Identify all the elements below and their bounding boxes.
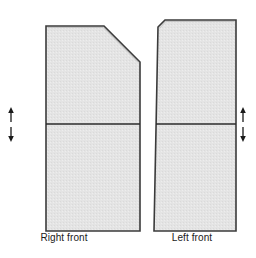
piece-right-front [8,26,140,231]
grain-arrow-down-icon [8,127,14,142]
pattern-diagram-svg [0,0,256,258]
pattern-diagram-figure: Right front Left front [0,0,256,258]
right-front-match-arrows [8,107,14,142]
left-front-outline [154,20,236,231]
right-front-outline [46,26,140,231]
left-front-match-arrows [240,107,246,142]
grain-arrow-down-icon [240,127,246,142]
piece-left-front [154,20,246,231]
grain-arrow-up-icon [240,107,246,122]
grain-arrow-up-icon [8,107,14,122]
